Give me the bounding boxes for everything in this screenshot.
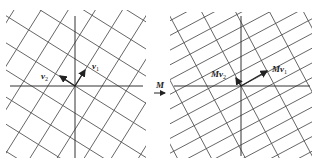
linear-transformation-diagram: v1 v2 M Mv1 Mv2 [0,0,316,166]
grid-line [101,61,316,166]
grid-line [3,0,316,65]
vector-Mv1-arrow [241,71,267,86]
grid-line [121,0,309,166]
label-M: M [155,80,165,90]
grid-line [0,0,200,166]
label-v1: v1 [92,61,99,72]
grid-line [89,38,316,166]
grid-line [71,4,316,166]
grid-line [113,84,316,166]
transform-indicator: M [154,80,165,93]
grid-line [28,0,316,111]
grid-line [0,0,293,114]
grid-line [9,0,316,77]
grid-line [0,0,281,133]
label-v2: v2 [41,71,48,82]
label-Mv2: Mv2 [210,69,226,80]
grid-line [132,118,316,166]
grid-line [16,0,316,88]
grid-line [0,0,232,166]
vector-v2-arrow [60,76,75,86]
grid-line [0,0,103,166]
vector-v1-arrow [75,70,85,86]
grid-line [0,78,184,166]
grid-line [77,15,316,166]
grid-line [253,0,316,166]
grid-line [0,0,161,166]
grid-line [147,0,316,166]
grid-line [41,0,229,166]
grid-line [52,0,316,157]
grid-line [125,107,316,166]
grid-line [0,39,208,166]
grid-line [138,130,316,166]
grid-line [58,0,316,166]
label-Mv1: Mv1 [271,64,287,75]
grid-line [47,0,259,166]
grid-line [0,0,316,42]
grid-line [0,0,316,75]
grid-line [83,27,316,166]
vector-Mv2-arrow [236,78,241,86]
